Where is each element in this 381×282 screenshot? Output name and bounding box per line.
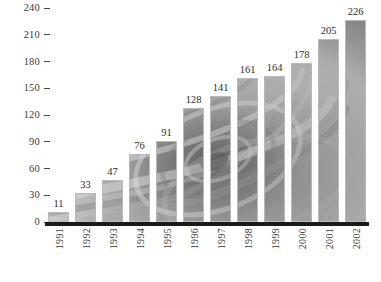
bar-value-label: 128	[186, 94, 202, 105]
y-axis-tick-label: 60	[29, 163, 40, 175]
x-axis-tick-label: 2002	[350, 228, 361, 249]
y-axis-tick-label: 240	[24, 2, 40, 14]
bar-group: 91	[156, 8, 177, 222]
bar[interactable]	[345, 20, 366, 222]
x-axis-tick: 1991	[45, 228, 72, 278]
bar-texture-fill	[264, 76, 285, 222]
bar-group: 11	[48, 8, 69, 222]
y-axis-tick-label: 210	[24, 29, 40, 41]
bar-texture-fill	[75, 193, 96, 222]
x-axis-tick-label: 1994	[134, 228, 145, 249]
bar-value-label: 33	[80, 179, 91, 190]
x-axis-tick-label: 2000	[296, 228, 307, 249]
bar[interactable]	[48, 212, 69, 222]
bar[interactable]	[237, 78, 258, 222]
x-axis-baseline	[45, 222, 369, 226]
x-axis-tick-label: 2001	[323, 228, 334, 249]
bar-texture-fill	[210, 96, 231, 222]
plot-area: 1133477691128141161164178205226	[45, 8, 369, 222]
y-axis-tick-label: 30	[29, 189, 40, 201]
bar-value-label: 161	[240, 64, 256, 75]
x-axis-tick: 1998	[234, 228, 261, 278]
bar-texture-fill	[102, 180, 123, 222]
x-axis-tick: 2002	[342, 228, 369, 278]
x-axis-tick-label: 1991	[53, 228, 64, 249]
x-axis-tick-label: 1993	[107, 228, 118, 249]
bar-texture-fill	[318, 39, 339, 222]
bar-value-label: 11	[53, 198, 63, 209]
bar-group: 205	[318, 8, 339, 222]
bar-texture-fill	[183, 108, 204, 222]
bar-group: 226	[345, 8, 366, 222]
x-axis-tick: 1993	[99, 228, 126, 278]
bar-value-label: 205	[321, 25, 337, 36]
x-axis-tick: 1995	[153, 228, 180, 278]
bar-group: 33	[75, 8, 96, 222]
x-axis-tick: 1997	[207, 228, 234, 278]
bar[interactable]	[102, 180, 123, 222]
bar-texture-fill	[237, 78, 258, 222]
x-axis-tick: 1994	[126, 228, 153, 278]
bar-texture-fill	[129, 154, 150, 222]
bar[interactable]	[318, 39, 339, 222]
x-axis-tick-label: 1995	[161, 228, 172, 249]
bar-group: 128	[183, 8, 204, 222]
bar-group: 47	[102, 8, 123, 222]
bar[interactable]	[291, 63, 312, 222]
bar-group: 178	[291, 8, 312, 222]
bar[interactable]	[75, 193, 96, 222]
bar-texture-fill	[345, 20, 366, 222]
y-axis-tick-label: 0	[35, 216, 40, 228]
bar-group: 76	[129, 8, 150, 222]
bar[interactable]	[264, 76, 285, 222]
bar-group: 164	[264, 8, 285, 222]
bar-texture-fill	[156, 141, 177, 222]
bar[interactable]	[129, 154, 150, 222]
bar-texture-fill	[48, 212, 69, 222]
x-axis: 1991199219931994199519961997199819992000…	[45, 228, 369, 282]
x-axis-tick: 2001	[315, 228, 342, 278]
bar-group: 141	[210, 8, 231, 222]
x-axis-tick-label: 1997	[215, 228, 226, 249]
x-axis-tick-label: 1999	[269, 228, 280, 249]
x-axis-tick-label: 1998	[242, 228, 253, 249]
x-axis-tick: 1992	[72, 228, 99, 278]
x-axis-tick: 1999	[261, 228, 288, 278]
y-axis-tick-label: 120	[24, 109, 40, 121]
bar-value-label: 141	[213, 82, 229, 93]
x-axis-tick-label: 1992	[80, 228, 91, 249]
y-axis-tick-label: 180	[24, 56, 40, 68]
bar-value-label: 47	[107, 166, 118, 177]
x-axis-tick: 2000	[288, 228, 315, 278]
x-axis-tick: 1996	[180, 228, 207, 278]
bar-value-label: 178	[294, 49, 310, 60]
bar-value-label: 91	[161, 127, 172, 138]
bar-value-label: 226	[348, 6, 364, 17]
x-axis-tick-label: 1996	[188, 228, 199, 249]
bar-value-label: 164	[267, 62, 283, 73]
y-axis-tick-label: 90	[29, 136, 40, 148]
bar[interactable]	[183, 108, 204, 222]
bar-value-label: 76	[134, 140, 145, 151]
bar[interactable]	[156, 141, 177, 222]
bar-group: 161	[237, 8, 258, 222]
bar[interactable]	[210, 96, 231, 222]
bar-texture-fill	[291, 63, 312, 222]
y-axis-tick-label: 150	[24, 82, 40, 94]
bar-chart: 2402101801501209060300 11334776911281411…	[0, 0, 381, 282]
